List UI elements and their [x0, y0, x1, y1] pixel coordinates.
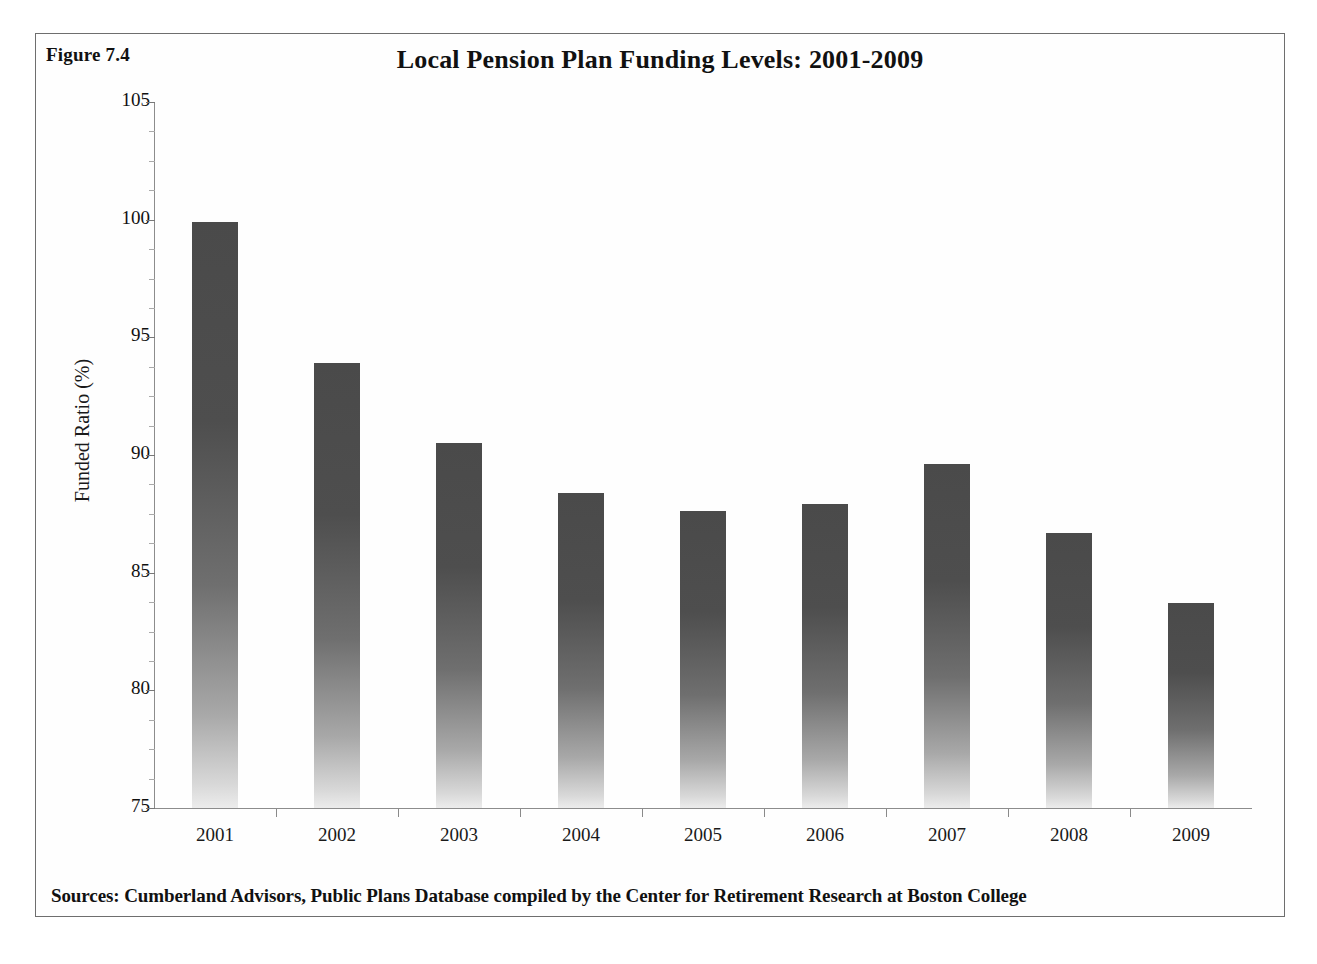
- x-axis-tick-label: 2007: [887, 824, 1007, 846]
- y-axis-tick-label: 75: [90, 795, 150, 817]
- y-axis-minor-tick: [149, 190, 155, 191]
- x-axis-tick-mark: [886, 809, 887, 817]
- x-axis-tick-mark: [276, 809, 277, 817]
- y-axis-tick-mark: [146, 573, 155, 574]
- y-axis-tick-mark: [146, 337, 155, 338]
- x-axis-tick-label: 2002: [277, 824, 397, 846]
- x-axis-tick-mark: [1130, 809, 1131, 817]
- x-axis-tick-mark: [1008, 809, 1009, 817]
- y-axis-tick-mark: [146, 220, 155, 221]
- y-axis-tick-label: 80: [90, 677, 150, 699]
- y-axis-minor-tick: [149, 720, 155, 721]
- bar: [314, 363, 360, 808]
- y-axis-minor-tick: [149, 514, 155, 515]
- source-note: Sources: Cumberland Advisors, Public Pla…: [51, 885, 1027, 907]
- y-axis-tick-mark: [146, 808, 155, 809]
- x-axis-tick-mark: [398, 809, 399, 817]
- x-axis-tick-label: 2003: [399, 824, 519, 846]
- y-axis-minor-tick: [149, 308, 155, 309]
- plot-area: Funded Ratio (%) 1051009590858075 200120…: [36, 34, 1284, 916]
- x-axis-tick-mark: [642, 809, 643, 817]
- bar: [802, 504, 848, 808]
- bar: [1168, 603, 1214, 808]
- bar: [558, 493, 604, 808]
- y-axis-minor-tick: [149, 279, 155, 280]
- y-axis-minor-tick: [149, 632, 155, 633]
- y-axis-minor-tick: [149, 484, 155, 485]
- x-axis-tick-mark: [520, 809, 521, 817]
- y-axis-minor-tick: [149, 543, 155, 544]
- y-axis-minor-tick: [149, 779, 155, 780]
- y-axis-minor-tick: [149, 249, 155, 250]
- figure-frame: Figure 7.4 Local Pension Plan Funding Le…: [35, 33, 1285, 917]
- y-axis-minor-tick: [149, 396, 155, 397]
- y-axis-minor-tick: [149, 426, 155, 427]
- y-axis-tick-mark: [146, 455, 155, 456]
- bar: [924, 464, 970, 808]
- y-axis-minor-tick: [149, 131, 155, 132]
- y-axis-minor-tick: [149, 749, 155, 750]
- y-axis-tick-label: 85: [90, 560, 150, 582]
- y-axis-minor-tick: [149, 602, 155, 603]
- x-axis-tick-mark: [764, 809, 765, 817]
- y-axis-minor-tick: [149, 661, 155, 662]
- y-axis-tick-label: 90: [90, 442, 150, 464]
- bar: [192, 222, 238, 808]
- y-axis-minor-tick: [149, 367, 155, 368]
- y-axis-tick-mark: [146, 690, 155, 691]
- y-axis-tick-label: 105: [90, 89, 150, 111]
- bar: [680, 511, 726, 808]
- bar: [1046, 533, 1092, 808]
- x-axis-tick-label: 2001: [155, 824, 275, 846]
- x-axis-tick-label: 2008: [1009, 824, 1129, 846]
- y-axis-label: Funded Ratio (%): [71, 331, 94, 531]
- x-axis-tick-label: 2009: [1131, 824, 1251, 846]
- y-axis-tick-label: 100: [90, 207, 150, 229]
- y-axis-tick-mark: [146, 102, 155, 103]
- x-axis-line: [154, 808, 1252, 809]
- x-axis-tick-label: 2005: [643, 824, 763, 846]
- y-axis-minor-tick: [149, 161, 155, 162]
- x-axis-tick-label: 2004: [521, 824, 641, 846]
- bar: [436, 443, 482, 808]
- x-axis-tick-label: 2006: [765, 824, 885, 846]
- y-axis-tick-label: 95: [90, 324, 150, 346]
